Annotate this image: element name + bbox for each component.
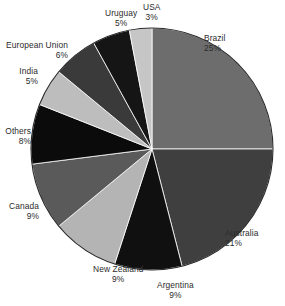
pie-label-name-usa: USA: [143, 2, 161, 12]
pie-label-value-brazil: 25%: [204, 43, 226, 53]
pie-label-argentina: Argentina9%: [157, 280, 194, 301]
pie-label-value-uruguay: 5%: [105, 18, 137, 28]
pie-label-name-brazil: Brazil: [204, 33, 226, 43]
pie-label-australia: Australia21%: [225, 228, 258, 249]
pie-label-new-zealand: New Zealand9%: [93, 264, 143, 285]
pie-label-name-canada: Canada: [9, 201, 39, 211]
pie-label-usa: USA3%: [143, 2, 161, 23]
pie-label-name-new-zealand: New Zealand: [93, 264, 143, 274]
pie-label-name-argentina: Argentina: [157, 280, 194, 290]
pie-label-value-others: 8%: [5, 136, 31, 146]
pie-label-value-new-zealand: 9%: [93, 274, 143, 284]
pie-label-name-india: India: [19, 66, 38, 76]
pie-label-others: Others8%: [5, 126, 31, 147]
pie-label-value-india: 5%: [19, 76, 38, 86]
pie-label-value-european-union: 6%: [6, 50, 68, 60]
pie-label-name-australia: Australia: [225, 228, 258, 238]
pie-chart: Brazil25%Australia21%Argentina9%New Zeal…: [0, 0, 285, 306]
pie-label-value-canada: 9%: [9, 211, 39, 221]
pie-label-european-union: European Union6%: [6, 40, 68, 61]
pie-label-india: India5%: [19, 66, 38, 87]
pie-label-name-european-union: European Union: [6, 40, 68, 50]
page-footer-mark: [2, 301, 28, 306]
pie-label-value-usa: 3%: [143, 12, 161, 22]
pie-label-uruguay: Uruguay5%: [105, 8, 137, 29]
pie-label-brazil: Brazil25%: [204, 33, 226, 54]
pie-label-canada: Canada9%: [9, 201, 39, 222]
pie-label-name-others: Others: [5, 126, 31, 136]
pie-label-value-argentina: 9%: [157, 290, 194, 300]
pie-label-name-uruguay: Uruguay: [105, 8, 137, 18]
pie-label-value-australia: 21%: [225, 238, 258, 248]
